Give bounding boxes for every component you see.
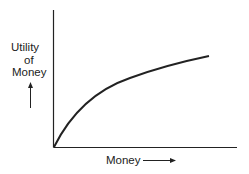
- y-arrow-head-icon: [28, 82, 33, 88]
- utility-diagram: [0, 0, 249, 174]
- y-label-line1: Utility: [11, 41, 39, 53]
- x-arrow-head-icon: [170, 158, 176, 163]
- utility-curve: [54, 56, 209, 147]
- y-label-line2: of: [24, 54, 34, 66]
- x-label: Money: [106, 154, 141, 166]
- y-label-line3: Money: [12, 66, 47, 78]
